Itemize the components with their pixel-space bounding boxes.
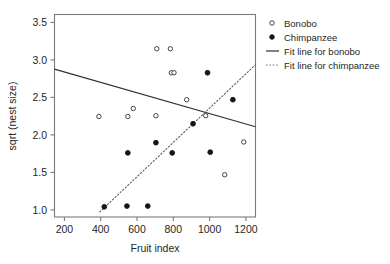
data-point-bonobo	[126, 114, 130, 118]
y-axis-ticks	[51, 22, 55, 210]
data-point-chimpanzee	[125, 150, 130, 155]
y-tick-label: 3.5	[32, 16, 47, 28]
scatter-plot-figure: 3.5 3.0 2.5 2.0 1.5 1.0 200 400 600 800 …	[0, 0, 390, 264]
data-point-bonobo	[204, 114, 208, 118]
y-tick-label: 3.0	[32, 54, 47, 66]
data-point-bonobo	[223, 173, 227, 177]
data-point-chimpanzee	[170, 150, 175, 155]
chart-canvas: 3.5 3.0 2.5 2.0 1.5 1.0 200 400 600 800 …	[0, 0, 390, 264]
legend-label-chimpanzee: Chimpanzee	[284, 32, 337, 43]
data-point-bonobo	[131, 106, 135, 110]
data-point-chimpanzee	[191, 121, 196, 126]
data-point-bonobo	[155, 47, 159, 51]
data-point-chimpanzee	[208, 150, 213, 155]
y-tick-label: 1.0	[32, 204, 47, 216]
data-point-bonobo	[184, 98, 188, 102]
x-tick-label: 800	[165, 223, 183, 235]
x-tick-label: 400	[92, 223, 110, 235]
x-tick-label: 1000	[198, 223, 222, 235]
data-point-bonobo	[168, 47, 172, 51]
x-tick-label: 200	[56, 223, 74, 235]
data-point-chimpanzee	[154, 140, 159, 145]
data-point-bonobo	[172, 71, 176, 75]
x-axis-title: Fruit index	[130, 242, 180, 254]
x-axis-tick-labels: 200 400 600 800 1000 1200	[56, 223, 258, 235]
fit-lines-layer	[55, 65, 256, 212]
legend: Bonobo Chimpanzee Fit line for bonobo Fi…	[266, 18, 380, 71]
data-point-bonobo	[154, 114, 158, 118]
legend-label-fit-line-chimpanzee: Fit line for chimpanzee	[284, 60, 380, 71]
data-point-chimpanzee	[102, 204, 107, 209]
legend-label-fit-line-bonobo: Fit line for bonobo	[284, 46, 360, 57]
y-tick-label: 2.0	[32, 129, 47, 141]
legend-marker-open-circle-icon	[270, 21, 274, 25]
data-point-chimpanzee	[230, 97, 235, 102]
data-point-bonobo	[97, 114, 101, 118]
data-point-chimpanzee	[145, 204, 150, 209]
data-points-layer	[97, 47, 246, 210]
y-axis-tick-labels: 3.5 3.0 2.5 2.0 1.5 1.0	[32, 16, 47, 216]
data-point-chimpanzee	[205, 70, 210, 75]
legend-marker-filled-circle-icon	[270, 35, 275, 40]
data-point-chimpanzee	[125, 204, 130, 209]
data-point-bonobo	[242, 140, 246, 144]
x-axis-ticks	[64, 217, 246, 221]
legend-label-bonobo: Bonobo	[284, 18, 317, 29]
fit-line-chimpanzee	[100, 65, 256, 212]
y-tick-label: 1.5	[32, 166, 47, 178]
y-axis-title: sqrt (nest size)	[6, 82, 18, 151]
x-tick-label: 600	[128, 223, 146, 235]
x-tick-label: 1200	[234, 223, 258, 235]
y-tick-label: 2.5	[32, 91, 47, 103]
